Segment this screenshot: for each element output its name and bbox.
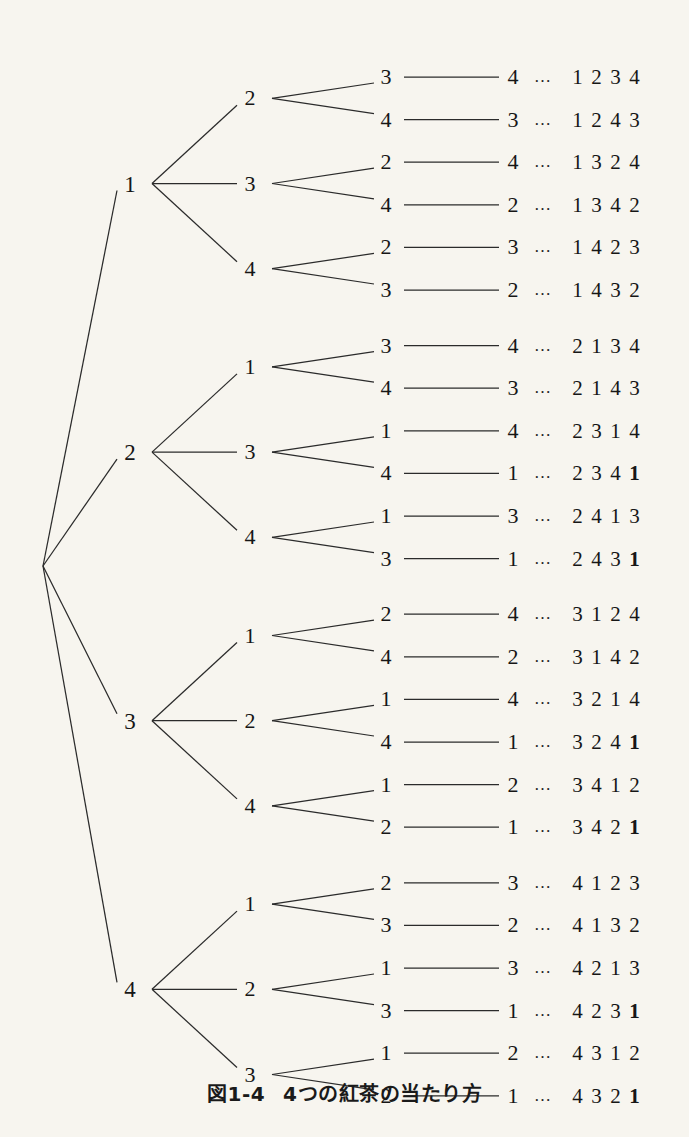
permutation-digit: 2 xyxy=(568,461,587,486)
edge-l2-to-l3-21 xyxy=(272,974,374,989)
node-level4-5: 3 xyxy=(508,236,519,258)
node-level1-4: 4 xyxy=(124,978,136,1001)
node-level4-23: 2 xyxy=(508,1042,519,1064)
edge-l2-to-l3-16 xyxy=(272,721,374,736)
node-level3-2: 4 xyxy=(381,109,392,131)
permutation-digit: 3 xyxy=(568,687,587,712)
permutation-digit: 4 xyxy=(587,278,606,303)
ellipsis-3: … xyxy=(534,152,552,172)
node-level4-4: 2 xyxy=(508,194,519,216)
permutation-digit: 3 xyxy=(606,333,625,358)
permutation-row: 1324 xyxy=(568,150,644,175)
node-level4-19: 3 xyxy=(508,872,519,894)
edge-l2-to-l3-9 xyxy=(272,437,374,452)
node-level4-22: 1 xyxy=(508,1000,519,1022)
edge-l2-to-l3-20 xyxy=(272,904,374,919)
permutation-digit: 2 xyxy=(568,546,587,571)
permutation-digit: 2 xyxy=(606,870,625,895)
permutation-row: 3142 xyxy=(568,644,644,669)
permutation-digit: 1 xyxy=(625,998,644,1023)
permutation-digit: 1 xyxy=(587,870,606,895)
permutation-digit: 2 xyxy=(625,278,644,303)
ellipsis-20: … xyxy=(534,915,552,935)
edge-l1-to-l2-3 xyxy=(152,184,237,262)
ellipsis-4: … xyxy=(534,195,552,215)
permutation-digit: 1 xyxy=(568,235,587,260)
permutation-digit: 1 xyxy=(568,278,587,303)
permutation-digit: 3 xyxy=(606,998,625,1023)
edge-l2-to-l3-10 xyxy=(272,452,374,467)
node-level2-9: 4 xyxy=(245,795,256,817)
node-level2-3: 4 xyxy=(245,258,256,280)
node-level2-6: 4 xyxy=(245,526,256,548)
permutation-digit: 4 xyxy=(568,870,587,895)
ellipsis-22: … xyxy=(534,1001,552,1021)
permutation-tree-figure: 1234234134124123342423341413241412231312… xyxy=(0,0,689,1137)
edge-l2-to-l3-19 xyxy=(272,889,374,904)
permutation-digit: 3 xyxy=(625,235,644,260)
permutation-digit: 1 xyxy=(625,815,644,840)
permutation-row: 4231 xyxy=(568,998,644,1023)
permutation-digit: 4 xyxy=(568,913,587,938)
node-level1-3: 3 xyxy=(124,709,136,732)
permutation-digit: 4 xyxy=(625,418,644,443)
node-level3-1: 3 xyxy=(381,66,392,88)
permutation-digit: 3 xyxy=(587,1041,606,1066)
permutation-row: 2431 xyxy=(568,546,644,571)
permutation-digit: 4 xyxy=(606,107,625,132)
permutation-row: 4312 xyxy=(568,1041,644,1066)
permutation-digit: 2 xyxy=(625,1041,644,1066)
node-level2-7: 1 xyxy=(245,625,256,647)
node-level2-8: 2 xyxy=(245,710,256,732)
permutation-digit: 2 xyxy=(587,687,606,712)
node-level4-16: 1 xyxy=(508,731,519,753)
permutation-digit: 4 xyxy=(625,687,644,712)
permutation-row: 2143 xyxy=(568,376,644,401)
permutation-digit: 2 xyxy=(625,192,644,217)
node-level3-12: 3 xyxy=(381,548,392,570)
permutation-digit: 1 xyxy=(568,65,587,90)
permutation-digit: 3 xyxy=(606,546,625,571)
permutation-row: 1432 xyxy=(568,278,644,303)
permutation-row: 4123 xyxy=(568,870,644,895)
edge-root-to-l1-1 xyxy=(43,191,117,567)
permutation-digit: 3 xyxy=(606,65,625,90)
permutation-digit: 2 xyxy=(606,235,625,260)
node-level2-5: 3 xyxy=(245,441,256,463)
node-level3-7: 3 xyxy=(381,335,392,357)
permutation-digit: 2 xyxy=(568,418,587,443)
permutation-row: 2341 xyxy=(568,461,644,486)
permutation-digit: 1 xyxy=(606,772,625,797)
edge-l1-to-l2-4 xyxy=(152,374,237,452)
node-level2-2: 3 xyxy=(245,173,256,195)
ellipsis-10: … xyxy=(534,463,552,483)
permutation-digit: 1 xyxy=(587,602,606,627)
permutation-row: 4132 xyxy=(568,913,644,938)
edge-l2-to-l3-4 xyxy=(272,184,374,199)
edge-l1-to-l2-7 xyxy=(152,643,237,721)
permutation-digit: 2 xyxy=(587,65,606,90)
node-level3-17: 1 xyxy=(381,774,392,796)
ellipsis-7: … xyxy=(534,336,552,356)
permutation-digit: 1 xyxy=(568,107,587,132)
edge-l2-to-l3-18 xyxy=(272,806,374,821)
edge-l1-to-l2-10 xyxy=(152,911,237,989)
permutation-digit: 3 xyxy=(625,504,644,529)
permutation-row: 3124 xyxy=(568,602,644,627)
permutation-digit: 3 xyxy=(568,730,587,755)
permutation-digit: 4 xyxy=(568,998,587,1023)
node-level4-14: 2 xyxy=(508,646,519,668)
permutation-digit: 2 xyxy=(568,504,587,529)
node-level4-15: 4 xyxy=(508,688,519,710)
node-level4-10: 1 xyxy=(508,462,519,484)
node-level4-6: 2 xyxy=(508,279,519,301)
node-level3-20: 3 xyxy=(381,914,392,936)
node-level4-2: 3 xyxy=(508,109,519,131)
node-level2-11: 2 xyxy=(245,978,256,1000)
permutation-digit: 3 xyxy=(606,913,625,938)
node-level3-23: 1 xyxy=(381,1042,392,1064)
permutation-digit: 1 xyxy=(625,461,644,486)
permutation-digit: 4 xyxy=(587,235,606,260)
permutation-digit: 2 xyxy=(606,602,625,627)
permutation-row: 3214 xyxy=(568,687,644,712)
